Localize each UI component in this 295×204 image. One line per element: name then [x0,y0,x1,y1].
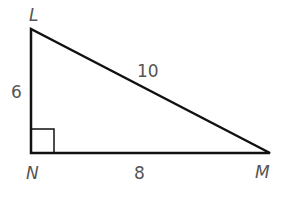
side-label-ln: 6 [11,82,22,102]
triangle-lmn [31,29,270,153]
side-label-nm: 8 [134,163,145,183]
triangle-diagram: L N M 6 8 10 [0,0,295,204]
vertex-label-n: N [26,163,39,183]
vertex-label-l: L [29,5,38,25]
vertex-label-m: M [255,162,270,182]
right-angle-marker [31,129,54,153]
side-label-lm: 10 [137,61,159,81]
